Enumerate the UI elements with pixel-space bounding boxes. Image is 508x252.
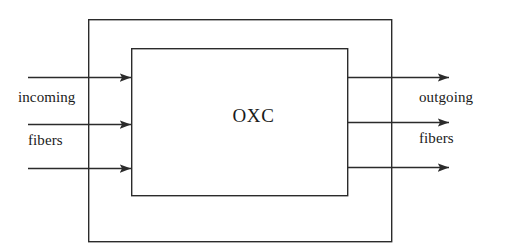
incoming-fibers-label: fibers xyxy=(28,132,63,149)
incoming-label: incoming xyxy=(18,89,75,106)
oxc-box-label-wrapper: OXC xyxy=(0,105,508,127)
outgoing-fibers-label: fibers xyxy=(419,130,454,147)
oxc-block-diagram: incoming fibers outgoing fibers OXC xyxy=(0,0,508,252)
oxc-box-label: OXC xyxy=(233,105,275,127)
outgoing-label: outgoing xyxy=(419,89,473,106)
